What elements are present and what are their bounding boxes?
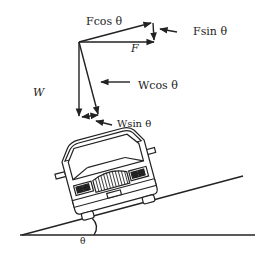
f-sin-label: Fsin θ <box>193 26 227 37</box>
f-cos-label: Fcos θ <box>86 16 122 27</box>
w-label: W <box>33 87 44 98</box>
f-sin-pointer-arrow <box>160 29 177 32</box>
car-icon <box>48 121 168 224</box>
theta-label: θ <box>80 237 85 246</box>
force-vectors <box>79 23 154 117</box>
f-sin-vector <box>153 23 154 40</box>
w-sin-vector <box>82 115 98 117</box>
w-sin-label: Wsin θ <box>117 119 151 129</box>
w-cos-vector <box>79 42 98 114</box>
angle-arc <box>92 218 97 235</box>
w-cos-label: Wcos θ <box>138 80 178 91</box>
w-sin-pointer-arrow <box>96 121 112 125</box>
f-label: F <box>131 43 139 54</box>
